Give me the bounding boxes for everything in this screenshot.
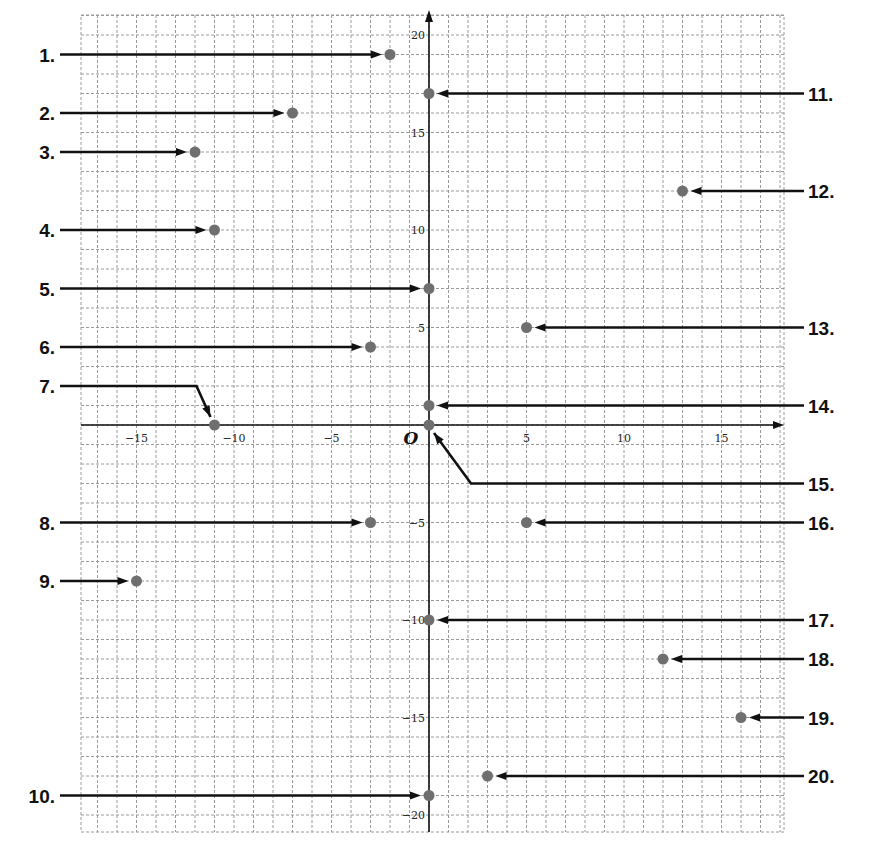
plotted-point <box>424 615 435 626</box>
plotted-point <box>677 186 688 197</box>
arrowhead-icon <box>437 90 448 98</box>
plotted-point <box>209 225 220 236</box>
plotted-point <box>424 420 435 431</box>
y-tick-label: −5 <box>409 517 425 530</box>
y-tick-label: −20 <box>402 809 425 822</box>
coordinate-plane-diagram: −15−10−5510152015105−5−10−15−20O 1.2.3.4… <box>0 0 871 852</box>
problem-label: 16. <box>808 513 834 534</box>
problem-label: 7. <box>39 376 55 397</box>
arrowhead-icon <box>410 285 421 293</box>
plotted-point <box>287 108 298 119</box>
y-tick-label: 5 <box>418 322 425 335</box>
plotted-point <box>365 517 376 528</box>
x-tick-label: 5 <box>523 432 530 445</box>
y-tick-label: −15 <box>402 712 425 725</box>
problem-label: 14. <box>808 396 834 417</box>
arrowhead-icon <box>352 519 363 527</box>
arrowhead-icon <box>437 616 448 624</box>
arrowhead-icon <box>671 655 682 663</box>
plotted-point <box>521 322 532 333</box>
problem-label: 18. <box>808 649 834 670</box>
arrowhead-icon <box>535 519 546 527</box>
plotted-point <box>131 576 142 587</box>
problem-label: 11. <box>808 84 833 105</box>
problem-label: 13. <box>808 318 834 339</box>
problem-label: 20. <box>808 766 834 787</box>
y-tick-label: 15 <box>411 127 425 140</box>
arrowhead-icon <box>371 51 382 59</box>
arrowhead-icon <box>496 772 507 780</box>
arrowhead-icon <box>118 577 129 585</box>
arrowhead-icon <box>274 109 285 117</box>
problem-label: 15. <box>808 474 834 495</box>
arrowhead-icon <box>749 714 760 722</box>
y-tick-label: 10 <box>411 224 425 237</box>
arrowhead-icon <box>691 187 702 195</box>
plotted-point <box>424 400 435 411</box>
x-tick-label: −15 <box>125 432 148 445</box>
y-tick-label: −10 <box>402 614 425 627</box>
coordinate-plane: −15−10−5510152015105−5−10−15−20O 1.2.3.4… <box>0 0 871 852</box>
x-tick-label: 10 <box>617 432 631 445</box>
problem-label: 1. <box>39 45 55 66</box>
arrowhead-icon <box>196 226 207 234</box>
problem-label: 5. <box>39 279 55 300</box>
x-axis-arrowhead-icon <box>773 421 784 429</box>
plotted-point <box>424 790 435 801</box>
arrowhead-icon <box>352 343 363 351</box>
plotted-point <box>658 654 669 665</box>
plotted-point <box>482 771 493 782</box>
problem-label: 3. <box>39 142 55 163</box>
problem-label: 19. <box>808 708 834 729</box>
plotted-point <box>209 420 220 431</box>
x-tick-label: −5 <box>323 432 339 445</box>
arrowhead-icon <box>535 324 546 332</box>
x-tick-label: 15 <box>715 432 729 445</box>
plotted-point <box>365 342 376 353</box>
plotted-point <box>424 88 435 99</box>
problem-label: 2. <box>39 103 55 124</box>
plotted-point <box>424 283 435 294</box>
x-tick-label: −10 <box>222 432 245 445</box>
problem-label: 10. <box>29 786 55 807</box>
problem-label: 6. <box>39 337 55 358</box>
problem-label: 17. <box>808 610 834 631</box>
arrowhead-icon <box>202 405 210 417</box>
problem-label: 8. <box>39 513 55 534</box>
problem-label: 12. <box>808 181 834 202</box>
y-tick-label: 20 <box>411 29 425 42</box>
arrowhead-icon <box>437 402 448 410</box>
problem-label: 9. <box>39 571 55 592</box>
problem-label: 4. <box>39 220 55 241</box>
plotted-point <box>736 712 747 723</box>
origin-label: O <box>404 428 419 448</box>
plotted-point <box>385 49 396 60</box>
plotted-point <box>521 517 532 528</box>
pointer-line <box>60 386 211 417</box>
arrowhead-icon <box>410 792 421 800</box>
arrowhead-icon <box>176 148 187 156</box>
plotted-point <box>190 147 201 158</box>
